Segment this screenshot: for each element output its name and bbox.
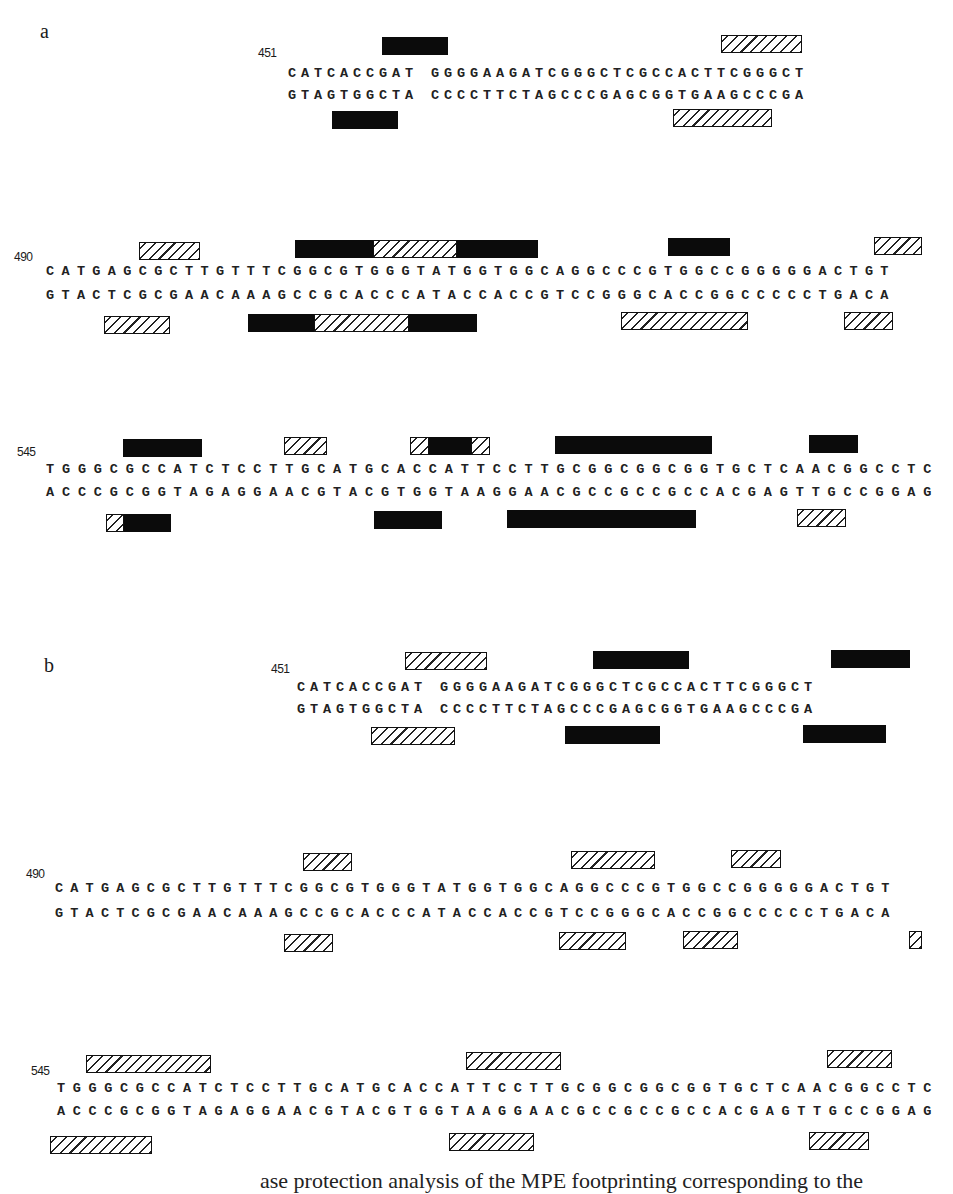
footprint-solid-segment — [457, 240, 538, 258]
footprint-hatch-segment — [471, 437, 490, 455]
bottom-strand: GTACTCGCGAACAAAGCCGCACCCATACCACCGTCCGGGC… — [46, 288, 896, 303]
footprint-hatch-segment — [373, 240, 457, 258]
footprint-solid-bottom — [507, 510, 696, 528]
footprint-hatch-top — [86, 1055, 211, 1073]
footprint-hatch-bottom — [797, 509, 846, 527]
footprint-solid-bottom — [565, 726, 660, 744]
footprint-hatch-top — [303, 853, 352, 871]
footprint-solid-top — [555, 436, 712, 454]
footprint-hatch-top — [874, 237, 922, 255]
footprint-hatch-bottom — [621, 312, 748, 330]
footprint-mixed-top — [410, 437, 490, 455]
footprint-solid-bottom — [374, 511, 442, 529]
footprint-solid-segment — [429, 437, 471, 455]
footprint-hatch-top — [466, 1052, 561, 1070]
footprint-mixed-bottom — [248, 314, 477, 332]
footprint-hatch-bottom — [844, 312, 893, 330]
figure-caption: ase protection analysis of the MPE footp… — [260, 1168, 863, 1194]
footprint-hatch-top — [827, 1050, 892, 1068]
top-strand: CATGAGCGCTTGTTTCGGCGTGGGTATGGTGGCAGGCCCG… — [55, 881, 897, 896]
footprint-solid-top — [831, 650, 910, 668]
footprint-hatch-bottom — [559, 932, 626, 950]
footprint-mixed-bottom — [106, 514, 171, 532]
position-label: 545 — [17, 445, 36, 459]
top-strand: CATGAGCGCTTGTTTCGGCGTGGGTATGGTGGCAGGCCCG… — [46, 264, 896, 279]
bottom-strand: GTAGTGGCTA CCCCTTCTAGCCCGAGCGGTGAAGCCCGA — [288, 88, 808, 103]
footprint-mixed-top — [295, 240, 538, 258]
footprint-hatch-top — [571, 851, 655, 869]
footprint-hatch-bottom — [371, 727, 455, 745]
footprint-solid-top — [123, 439, 202, 457]
footprint-hatch-top — [731, 850, 781, 868]
position-label: 451 — [271, 662, 290, 676]
footprint-solid-segment — [295, 240, 373, 258]
panel-label-a: a — [40, 20, 49, 43]
footprint-hatch-segment — [106, 514, 124, 532]
footprint-hatch-bottom — [909, 931, 922, 949]
footprint-hatch-bottom — [449, 1133, 534, 1151]
bottom-strand: GTACTCGCGAACAAAGCCGCACCCATACCACCGTCCGGGC… — [55, 906, 897, 921]
footprint-hatch-segment — [314, 314, 409, 332]
position-label: 451 — [258, 46, 277, 60]
footprint-hatch-top — [721, 35, 802, 53]
bottom-strand: ACCCGCGGTAGAGGAACGTACGTGGTAAGGAACGCCGCCG… — [57, 1104, 939, 1119]
footprint-solid-top — [382, 37, 448, 55]
bottom-strand: GTAGTGGCTA CCCCTTCTAGCCCGAGCGGTGAAGCCCGA — [297, 702, 817, 717]
footprint-hatch-bottom — [50, 1136, 152, 1154]
footprint-hatch-top — [284, 437, 327, 455]
top-strand: CATCACCGAT GGGGAAGATCGGGCTCGCCACTTCGGGCT — [288, 66, 808, 81]
position-label: 490 — [14, 250, 33, 264]
footprint-solid-segment — [248, 314, 314, 332]
footprint-solid-segment — [124, 514, 171, 532]
footprint-solid-bottom — [803, 725, 886, 743]
footprint-solid-bottom — [332, 111, 398, 129]
bottom-strand: ACCCGCGGTAGAGGAACGTACGTGGTAAGGAACGCCGCCG… — [46, 485, 939, 500]
panel-label-b: b — [44, 654, 54, 677]
footprint-solid-top — [809, 435, 858, 453]
position-label: 545 — [31, 1064, 50, 1078]
footprint-hatch-top — [139, 242, 200, 260]
footprint-hatch-bottom — [809, 1132, 869, 1150]
footprint-hatch-bottom — [673, 109, 772, 127]
footprint-solid-top — [668, 238, 730, 256]
footprint-hatch-bottom — [683, 931, 738, 949]
footprint-hatch-segment — [410, 437, 429, 455]
footprint-hatch-bottom — [284, 934, 333, 952]
footprint-hatch-top — [405, 652, 487, 670]
footprint-solid-top — [593, 651, 689, 669]
footprint-solid-segment — [409, 314, 477, 332]
top-strand: TGGGCGCCATCTCCTTGCATGCACCATTCCTTGCGGCGGC… — [57, 1081, 939, 1096]
top-strand: CATCACCGAT GGGGAAGATCGGGCTCGCCACTTCGGGCT — [297, 680, 817, 695]
top-strand: TGGGCGCCATCTCCTTGCATGCACCATTCCTTGCGGCGGC… — [46, 462, 939, 477]
position-label: 490 — [26, 867, 45, 881]
footprint-hatch-bottom — [104, 316, 170, 334]
